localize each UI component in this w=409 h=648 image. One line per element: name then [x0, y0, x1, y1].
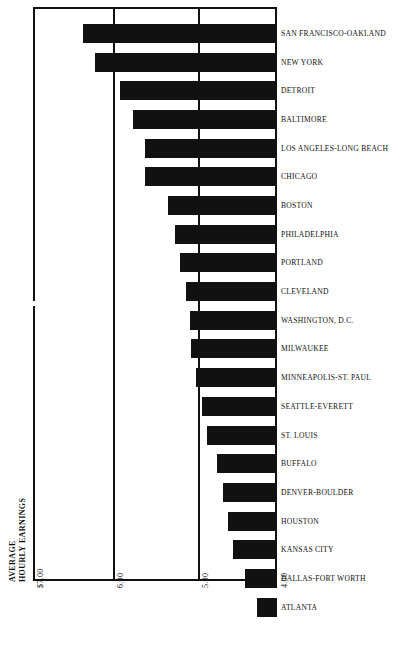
category-label: DENVER-BOULDER — [281, 488, 354, 498]
category-label: BALTIMORE — [281, 115, 327, 125]
bar — [168, 196, 277, 215]
category-label: PHILADELPHIA — [281, 230, 339, 240]
axis-title: AVERAGE HOURLY EARNINGS — [8, 498, 28, 582]
bar — [95, 53, 277, 72]
category-label: HOUSTON — [281, 517, 319, 527]
category-label: DETROIT — [281, 86, 315, 96]
category-label: MINNEAPOLIS-ST. PAUL — [281, 373, 371, 383]
bar — [233, 540, 277, 559]
bar — [245, 569, 277, 588]
bar — [228, 512, 277, 531]
bar — [83, 24, 277, 43]
bar — [120, 81, 277, 100]
category-label: DALLAS-FORT WORTH — [281, 574, 366, 584]
category-label: SAN FRANCISCO-OAKLAND — [281, 29, 386, 39]
category-label: ST. LOUIS — [281, 431, 318, 441]
axis-title-line-2: HOURLY EARNINGS — [18, 498, 28, 582]
category-label: SEATTLE-EVERETT — [281, 402, 353, 412]
bar — [145, 139, 277, 158]
bar — [186, 282, 277, 301]
bars-layer — [33, 7, 277, 581]
bar — [202, 397, 277, 416]
bar — [257, 598, 277, 617]
bar — [175, 225, 277, 244]
tick-label: 5.00 — [201, 573, 210, 588]
category-label: CLEVELAND — [281, 287, 329, 297]
category-label: MILWAUKEE — [281, 344, 329, 354]
tick-label: 4.00 — [280, 573, 289, 588]
category-label: ATLANTA — [281, 603, 317, 613]
bar — [207, 426, 277, 445]
bar — [145, 167, 277, 186]
category-label: PORTLAND — [281, 258, 323, 268]
bar — [180, 253, 277, 272]
category-label: CHICAGO — [281, 172, 317, 182]
bar — [223, 483, 277, 502]
bar — [217, 454, 277, 473]
plot-area — [33, 7, 277, 581]
category-labels: SAN FRANCISCO-OAKLANDNEW YORKDETROITBALT… — [281, 7, 409, 581]
category-label: BOSTON — [281, 201, 313, 211]
bar — [133, 110, 277, 129]
category-label: NEW YORK — [281, 58, 323, 68]
category-label: KANSAS CITY — [281, 545, 334, 555]
category-label: WASHINGTON, D.C. — [281, 316, 354, 326]
category-label: BUFFALO — [281, 459, 317, 469]
bar — [191, 339, 277, 358]
tick-label: 6.00 — [116, 573, 125, 588]
category-label: LOS ANGELES-LONG BEACH — [281, 144, 388, 154]
bar-chart: SAN FRANCISCO-OAKLANDNEW YORKDETROITBALT… — [0, 0, 409, 648]
bar — [196, 368, 277, 387]
tick-label: $7.00 — [36, 569, 45, 589]
axis-title-line-1: AVERAGE — [8, 498, 18, 582]
bar — [190, 311, 277, 330]
